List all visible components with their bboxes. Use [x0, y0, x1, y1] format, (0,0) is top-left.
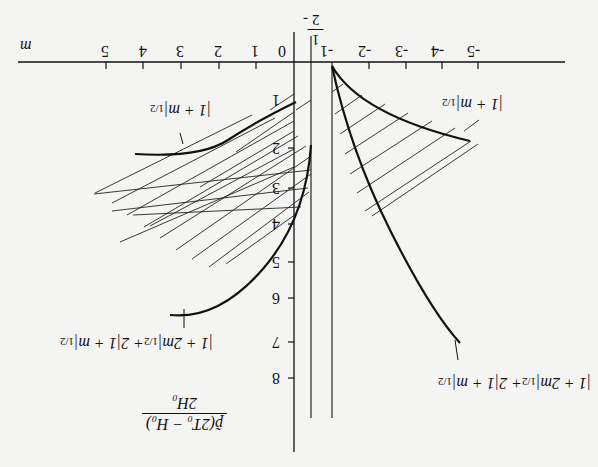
- x-axis-label: m: [20, 38, 32, 54]
- diagram-canvas: [0, 0, 598, 467]
- x-tick-0: 0: [278, 43, 286, 59]
- x-tick-4: 4: [139, 43, 147, 59]
- x-tick-neg-5: -5: [467, 43, 480, 59]
- x-axis-ticks: [106, 62, 478, 69]
- x-tick-neg-3: -3: [395, 43, 408, 59]
- y-tick-2: 2: [272, 140, 280, 156]
- x-tick-neg-4: -4: [431, 43, 444, 59]
- y-tick-4: 4: [272, 216, 280, 232]
- leader-upper-left: [180, 133, 183, 144]
- y-tick-1: 1: [272, 92, 280, 108]
- x-tick-neg-2: -2: [358, 43, 371, 59]
- x-tick-3: 3: [176, 43, 184, 59]
- y-tick-6: 6: [272, 290, 280, 306]
- y-tick-7: 7: [272, 334, 280, 350]
- label-upper-right: |1 + m|1/2: [442, 96, 503, 112]
- label-lower-right: |1 + 2m|1/2+ 2|1 + m|1/2: [438, 375, 591, 391]
- y-tick-8: 8: [272, 370, 280, 386]
- x-tick-2: 2: [214, 43, 222, 59]
- x-tick-1: 1: [251, 43, 259, 59]
- y-tick-5: 5: [272, 254, 280, 270]
- label-upper-left: |1 + m|1/2: [150, 102, 211, 118]
- curve-lower-right: [332, 66, 460, 343]
- y-axis-ticks: [288, 148, 294, 378]
- x-tick-5: 5: [101, 43, 109, 59]
- label-lower-left: |1 + 2m|1/2+ 2|1 + m|1/2: [60, 335, 213, 351]
- x-mark-minus-half: 1 2 -: [303, 12, 324, 47]
- leader-lower-right: [455, 340, 458, 360]
- y-tick-3: 3: [272, 180, 280, 196]
- y-axis-label: p̃(2T₀ − H₀) 2H₀: [142, 395, 227, 432]
- stability-diagram: m 5 4 3 2 1 0 -1 -2 -3 -4 -5 1 2 - 1 2 3…: [0, 0, 598, 467]
